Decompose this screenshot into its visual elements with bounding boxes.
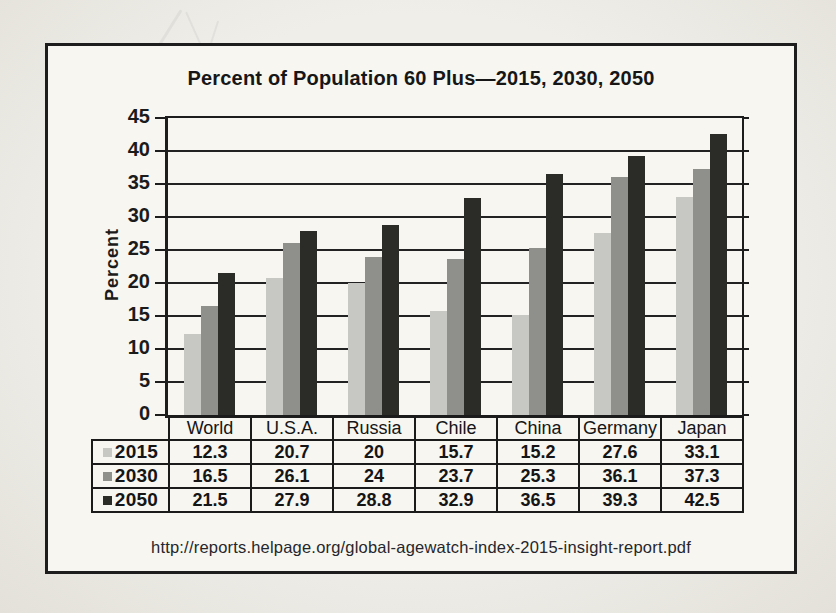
- data-table: WorldU.S.A.RussiaChileChinaGermanyJapan2…: [91, 415, 744, 513]
- col-header-germany: Germany: [579, 416, 661, 440]
- y-tick-label-30: 30: [104, 202, 150, 228]
- bar-group-world: [168, 118, 250, 415]
- cell-2015-usa: 20.7: [251, 440, 333, 464]
- y-tick-mark-40: [155, 150, 165, 152]
- y-tick-label-10: 10: [104, 334, 150, 360]
- bar-2050-japan: [710, 134, 727, 415]
- col-header-chile: Chile: [415, 416, 497, 440]
- col-header-russia: Russia: [333, 416, 415, 440]
- cell-2050-usa: 27.9: [251, 488, 333, 512]
- legend-label-2050: 2050: [115, 489, 158, 510]
- legend-cell-2050: 2050: [92, 488, 169, 512]
- figure-box: Percent of Population 60 Plus—2015, 2030…: [45, 43, 797, 574]
- bar-2050-china: [546, 174, 563, 415]
- bar-2015-germany: [594, 233, 611, 415]
- bar-2030-china: [529, 248, 546, 415]
- y-tick-label-40: 40: [104, 136, 150, 162]
- bar-2050-germany: [628, 156, 645, 415]
- bar-2050-chile: [464, 198, 481, 415]
- cell-2050-germany: 39.3: [579, 488, 661, 512]
- bar-group-russia: [332, 118, 414, 415]
- cell-2030-japan: 37.3: [661, 464, 743, 488]
- col-header-usa: U.S.A.: [251, 416, 333, 440]
- plot-area: [165, 116, 744, 418]
- cell-2030-chile: 23.7: [415, 464, 497, 488]
- y-tick-label-35: 35: [104, 169, 150, 195]
- cell-2015-chile: 15.7: [415, 440, 497, 464]
- bar-group-japan: [660, 118, 742, 415]
- cell-2030-germany: 36.1: [579, 464, 661, 488]
- y-tick-mark-30: [155, 216, 165, 218]
- y-tick-label-15: 15: [104, 301, 150, 327]
- bar-2030-world: [201, 306, 218, 415]
- y-tick-mark-right-10: [744, 348, 749, 350]
- y-tick-mark-right-5: [744, 381, 749, 383]
- y-tick-mark-right-35: [744, 183, 749, 185]
- y-tick-mark-45: [155, 117, 165, 119]
- legend-label-2030: 2030: [115, 465, 158, 486]
- bar-group-china: [496, 118, 578, 415]
- y-tick-label-25: 25: [104, 235, 150, 261]
- col-header-china: China: [497, 416, 579, 440]
- y-tick-mark-right-40: [744, 150, 749, 152]
- cell-2015-world: 12.3: [169, 440, 251, 464]
- y-tick-mark-right-25: [744, 249, 749, 251]
- bar-2015-usa: [266, 278, 283, 415]
- cell-2050-russia: 28.8: [333, 488, 415, 512]
- cell-2015-russia: 20: [333, 440, 415, 464]
- table-row-2050: 205021.527.928.832.936.539.342.5: [92, 488, 743, 512]
- bar-2050-russia: [382, 225, 399, 415]
- y-tick-label-20: 20: [104, 268, 150, 294]
- table-corner-spacer: [92, 416, 169, 440]
- y-tick-mark-25: [155, 249, 165, 251]
- legend-cell-2015: 2015: [92, 440, 169, 464]
- bar-2015-russia: [348, 283, 365, 415]
- cell-2015-china: 15.2: [497, 440, 579, 464]
- bar-group-germany: [578, 118, 660, 415]
- bar-2015-world: [184, 334, 201, 415]
- col-header-world: World: [169, 416, 251, 440]
- bar-2030-germany: [611, 177, 628, 415]
- scanned-page: Percent of Population 60 Plus—2015, 2030…: [0, 0, 836, 613]
- cell-2050-world: 21.5: [169, 488, 251, 512]
- y-tick-mark-right-45: [744, 117, 749, 119]
- cell-2030-china: 25.3: [497, 464, 579, 488]
- y-tick-mark-5: [155, 381, 165, 383]
- cell-2030-usa: 26.1: [251, 464, 333, 488]
- bar-2030-chile: [447, 259, 464, 415]
- table-row-2030: 203016.526.12423.725.336.137.3: [92, 464, 743, 488]
- y-tick-mark-right-20: [744, 282, 749, 284]
- bar-2030-japan: [693, 169, 710, 415]
- table-header-row: WorldU.S.A.RussiaChileChinaGermanyJapan: [92, 416, 743, 440]
- cell-2050-china: 36.5: [497, 488, 579, 512]
- legend-swatch-2050: [103, 496, 112, 505]
- y-tick-mark-20: [155, 282, 165, 284]
- cell-2050-japan: 42.5: [661, 488, 743, 512]
- values-table: WorldU.S.A.RussiaChileChinaGermanyJapan2…: [91, 415, 744, 513]
- bar-2015-china: [512, 315, 529, 415]
- bar-2050-usa: [300, 231, 317, 415]
- y-tick-mark-right-30: [744, 216, 749, 218]
- bar-group-chile: [414, 118, 496, 415]
- chart-title: Percent of Population 60 Plus—2015, 2030…: [48, 67, 794, 90]
- cell-2015-germany: 27.6: [579, 440, 661, 464]
- table-row-2015: 201512.320.72015.715.227.633.1: [92, 440, 743, 464]
- bar-2015-chile: [430, 311, 447, 415]
- cell-2030-russia: 24: [333, 464, 415, 488]
- bar-2050-world: [218, 273, 235, 415]
- y-tick-mark-right-0: [744, 414, 749, 416]
- y-tick-label-5: 5: [104, 367, 150, 393]
- bar-2015-japan: [676, 197, 693, 415]
- legend-swatch-2030: [103, 472, 112, 481]
- cell-2030-world: 16.5: [169, 464, 251, 488]
- cell-2050-chile: 32.9: [415, 488, 497, 512]
- legend-cell-2030: 2030: [92, 464, 169, 488]
- y-tick-mark-35: [155, 183, 165, 185]
- bar-group-usa: [250, 118, 332, 415]
- bar-2030-russia: [365, 257, 382, 415]
- y-axis: 051015202530354045: [104, 116, 150, 416]
- legend-swatch-2015: [103, 448, 112, 457]
- col-header-japan: Japan: [661, 416, 743, 440]
- y-tick-mark-10: [155, 348, 165, 350]
- y-tick-mark-15: [155, 315, 165, 317]
